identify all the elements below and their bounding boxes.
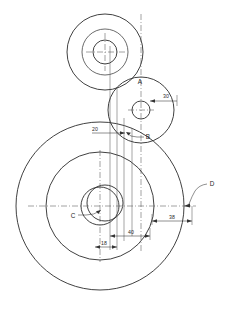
dimension-38-text: 38 — [169, 214, 175, 220]
label-d-text: D — [210, 180, 215, 187]
dimension-18-arrow-right — [112, 245, 117, 248]
dimension-40-group: 40 — [110, 228, 150, 240]
technical-drawing-canvas: 30 20 40 18 38 — [0, 0, 225, 310]
label-b-text: B — [146, 133, 150, 140]
dimension-40-arrow-right — [145, 234, 150, 237]
label-d-leader — [189, 184, 207, 204]
dimension-38-arrow-right — [187, 219, 192, 222]
dimension-18-text: 18 — [101, 240, 107, 246]
dimension-40-text: 40 — [128, 229, 134, 235]
label-b-arrow — [126, 132, 131, 136]
dimension-20-group: 20 — [92, 126, 125, 135]
label-c-text: C — [71, 212, 76, 219]
balloon-a-group: A — [138, 78, 143, 85]
dimension-30-group: 30 — [150, 93, 177, 106]
bottom-gear-group — [16, 122, 196, 290]
dimension-30-text: 30 — [163, 93, 169, 99]
label-a-text: A — [138, 78, 143, 85]
balloon-d-group: D — [184, 180, 215, 208]
bottom-offset-bore-circle — [87, 185, 123, 221]
dimension-38-group: 38 — [152, 206, 192, 225]
dimension-38-arrow-left — [152, 219, 157, 222]
dimension-30-arrow-left — [150, 99, 155, 102]
balloon-c-group: C — [71, 210, 101, 219]
balloon-b-group: B — [126, 132, 150, 140]
dimension-20-text: 20 — [92, 126, 98, 132]
label-d-arrow — [184, 204, 190, 208]
dimension-40-arrow-left — [110, 234, 115, 237]
dimension-18-group: 18 — [95, 240, 117, 249]
drawing-svg: 30 20 40 18 38 — [0, 0, 225, 310]
dimension-18-arrow-left — [95, 245, 100, 248]
